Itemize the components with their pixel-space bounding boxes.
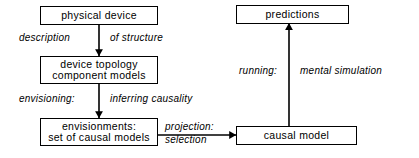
node-envisionments[interactable]: envisionments: set of causal models xyxy=(40,118,158,146)
edge-label-envisioning: envisioning: xyxy=(19,93,75,105)
edge-label-description: description xyxy=(19,32,70,44)
edge-label-running: running: xyxy=(239,65,277,77)
node-predictions[interactable]: predictions xyxy=(236,5,349,24)
node-causal-model[interactable]: causal model xyxy=(236,126,357,145)
node-device-topology[interactable]: device topology component models xyxy=(40,56,158,84)
edge-label-mental-simulation: mental simulation xyxy=(300,65,382,77)
node-causal-model-line-1: causal model xyxy=(264,130,329,142)
node-physical-device-line-1: physical device xyxy=(61,10,137,22)
node-predictions-line-1: predictions xyxy=(265,9,319,21)
edge-label-projection: projection: xyxy=(165,120,214,133)
node-envisionments-line-2: set of causal models xyxy=(48,132,150,144)
node-device-topology-line-2: component models xyxy=(52,70,146,82)
process-flow-diagram: physical device device topology componen… xyxy=(0,0,419,158)
edge-label-selection: selection xyxy=(165,133,214,146)
edge-label-projection-selection: projection: selection xyxy=(165,120,214,146)
edge-label-of-structure: of structure xyxy=(110,32,163,44)
node-physical-device[interactable]: physical device xyxy=(40,6,158,25)
edge-label-inferring-causality: inferring causality xyxy=(110,93,193,105)
